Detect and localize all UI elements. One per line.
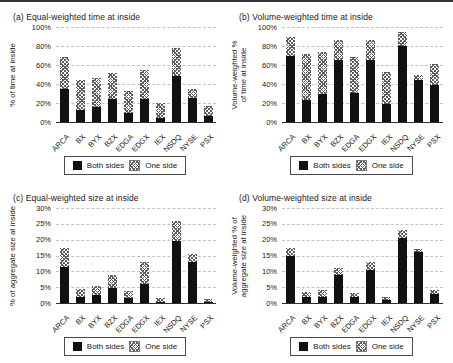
- y-tick-label: 5%: [266, 284, 277, 292]
- bar-both-sides-EDGA: [350, 297, 359, 303]
- x-tick-label: NYSE: [178, 132, 199, 153]
- bar-one-side-EDGX: [366, 262, 375, 270]
- y-axis-ticks: 0%5%10%15%20%25%30%: [26, 208, 56, 304]
- x-tick-label: BX: [74, 313, 87, 326]
- bar-one-side-NSDQ: [398, 32, 407, 46]
- bar-one-side-ARCA: [286, 248, 295, 256]
- bar-both-sides-PSX: [430, 294, 439, 303]
- bar-both-sides-BYX: [318, 94, 327, 123]
- chart-area: % of time at inside 0%20%40%60%80%100% A…: [0, 27, 226, 123]
- bar-one-side-BYX: [92, 78, 101, 107]
- bar-one-side-EDGA: [124, 291, 133, 298]
- panel-a: (a) Equal-weighted time at inside % of t…: [0, 2, 226, 183]
- bar-both-sides-BX: [302, 297, 311, 303]
- bar-both-sides-ARCA: [286, 256, 295, 304]
- bar-one-side-PSX: [430, 64, 439, 85]
- panel-b: (b) Volume-weighted time at inside Volum…: [226, 2, 453, 183]
- one-side-swatch: [129, 341, 140, 352]
- x-tick-label: ARCA: [50, 313, 71, 334]
- bar-one-side-BX: [76, 289, 85, 297]
- y-tick-label: 5%: [40, 284, 51, 292]
- bar-one-side-PSX: [430, 290, 439, 294]
- plot-area: ARCABXBYXBZXEDGAEDGXIEXNSDQNYSEPSX: [282, 27, 443, 123]
- bar-both-sides-BYX: [92, 107, 101, 122]
- bar-one-side-EDGX: [140, 70, 149, 99]
- bar-both-sides-PSX: [430, 85, 439, 122]
- bar-one-side-NYSE: [188, 89, 197, 99]
- bar-both-sides-IEX: [382, 300, 391, 303]
- x-tick-label: ARCA: [276, 132, 297, 153]
- bar-both-sides-ARCA: [60, 267, 69, 303]
- gridline: [56, 240, 216, 241]
- bar-one-side-EDGA: [350, 57, 359, 92]
- panel-a-title: (a) Equal-weighted time at inside: [13, 12, 226, 22]
- one-side-label: One side: [145, 343, 177, 351]
- gridline: [56, 208, 216, 209]
- bar-one-side-EDGA: [350, 293, 359, 297]
- legend: Both sides One side: [290, 156, 412, 175]
- legend: Both sides One side: [290, 337, 412, 356]
- bar-both-sides-BZX: [334, 275, 343, 304]
- panel-c-title: (c) Equal-weighted size at inside: [13, 193, 226, 203]
- panel-grid: (a) Equal-weighted time at inside % of t…: [0, 2, 453, 363]
- bar-one-side-NYSE: [414, 249, 423, 252]
- bar-one-side-NYSE: [414, 75, 423, 81]
- bar-one-side-BX: [302, 292, 311, 297]
- y-axis-label: Volume-weighted % of aggregate size at i…: [230, 215, 249, 297]
- both-sides-swatch: [299, 342, 308, 351]
- one-side-swatch: [129, 160, 140, 171]
- chart-area: Volume-weighted % of time at inside 0%20…: [226, 27, 453, 123]
- bar-one-side-BYX: [318, 290, 327, 297]
- both-sides-label: Both sides: [87, 162, 124, 170]
- bar-both-sides-NSDQ: [398, 238, 407, 303]
- x-tick-label: ARCA: [276, 313, 297, 334]
- y-tick-label: 60%: [262, 62, 277, 70]
- gridline: [56, 65, 216, 66]
- one-side-swatch: [356, 341, 367, 352]
- bar-one-side-EDGX: [366, 40, 375, 60]
- bar-one-side-BZX: [334, 40, 343, 60]
- bar-both-sides-NSDQ: [398, 46, 407, 122]
- y-tick-label: 60%: [36, 62, 51, 70]
- gridline: [282, 208, 443, 209]
- x-tick-label: BYX: [312, 313, 329, 330]
- y-axis-ticks: 0%5%10%15%20%25%30%: [252, 208, 282, 304]
- both-sides-swatch: [299, 161, 308, 170]
- y-tick-label: 25%: [36, 220, 51, 228]
- y-tick-label: 80%: [36, 43, 51, 51]
- bar-one-side-BZX: [334, 268, 343, 274]
- both-sides-label: Both sides: [313, 343, 350, 351]
- one-side-label: One side: [145, 162, 177, 170]
- y-tick-label: 0%: [266, 300, 277, 308]
- bar-both-sides-NYSE: [188, 262, 197, 303]
- x-tick-label: BYX: [312, 132, 329, 149]
- bar-one-side-NYSE: [188, 254, 197, 262]
- bar-one-side-ARCA: [60, 57, 69, 88]
- bar-both-sides-NSDQ: [172, 241, 181, 303]
- bar-both-sides-EDGX: [366, 270, 375, 303]
- y-axis-ticks: 0%20%40%60%80%100%: [252, 27, 282, 123]
- bar-one-side-PSX: [204, 299, 213, 302]
- bar-both-sides-BX: [302, 100, 311, 122]
- both-sides-label: Both sides: [313, 162, 350, 170]
- y-tick-label: 30%: [262, 205, 277, 213]
- y-tick-label: 20%: [36, 236, 51, 244]
- plot-area: ARCABXBYXBZXEDGAEDGXIEXNSDQNYSEPSX: [56, 27, 216, 123]
- bar-both-sides-BZX: [108, 288, 117, 303]
- x-tick-label: EDGA: [340, 132, 361, 153]
- panel-b-title: (b) Volume-weighted time at inside: [239, 12, 453, 22]
- gridline: [282, 240, 443, 241]
- plot-area: ARCABXBYXBZXEDGAEDGXIEXNSDQNYSEPSX: [56, 208, 216, 304]
- bar-both-sides-IEX: [382, 104, 391, 122]
- bar-both-sides-NSDQ: [172, 76, 181, 122]
- gridline: [282, 224, 443, 225]
- bar-both-sides-EDGA: [350, 93, 359, 122]
- y-tick-label: 20%: [36, 100, 51, 108]
- y-tick-label: 100%: [258, 24, 277, 32]
- bar-one-side-IEX: [156, 298, 165, 302]
- x-tick-label: BX: [300, 132, 313, 145]
- bar-both-sides-EDGX: [366, 60, 375, 122]
- x-tick-label: PSX: [198, 313, 215, 330]
- y-tick-label: 20%: [262, 100, 277, 108]
- bar-both-sides-ARCA: [286, 56, 295, 123]
